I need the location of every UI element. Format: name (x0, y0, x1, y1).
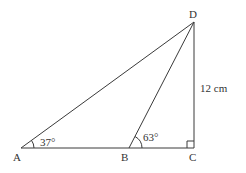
point-label-B: B (121, 151, 128, 163)
segment-DA (21, 22, 194, 148)
angle-label-A: 37° (40, 136, 55, 148)
angle-arc-B (135, 137, 142, 149)
point-label-A: A (13, 151, 21, 163)
point-label-D: D (189, 8, 197, 20)
length-label-DC: 12 cm (200, 82, 228, 94)
angle-arc-A (32, 140, 35, 148)
right-angle-marker-C (187, 141, 194, 148)
point-label-C: C (189, 151, 196, 163)
segment-DB (129, 22, 194, 148)
angle-label-B: 63° (143, 131, 158, 143)
triangle-diagram: D A B C 37° 63° 12 cm (0, 0, 246, 173)
